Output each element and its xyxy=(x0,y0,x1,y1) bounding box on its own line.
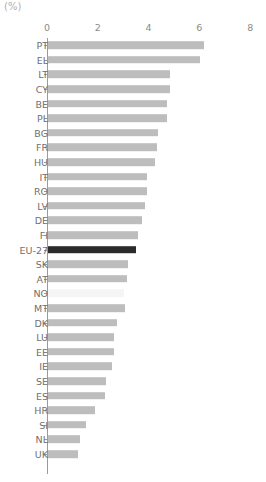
chart-row: SE xyxy=(0,374,266,389)
category-label-lu: LU xyxy=(36,332,48,343)
plot-area: 02468PTELLTCYBEPLBGFRHUITROLVDEFIEU-27SK… xyxy=(0,0,266,482)
bar-si xyxy=(48,421,86,429)
bar-es xyxy=(48,392,105,400)
category-label-eu-27: EU-27 xyxy=(20,244,48,255)
chart-row: EL xyxy=(0,53,266,68)
x-tick-label-2: 2 xyxy=(95,22,101,33)
bar-nl xyxy=(48,436,80,444)
bar-hu xyxy=(48,158,155,166)
chart-row: CY xyxy=(0,82,266,97)
bar-it xyxy=(48,173,147,181)
chart-row: DE xyxy=(0,213,266,228)
bar-el xyxy=(48,56,200,64)
chart-row: DK xyxy=(0,315,266,330)
bar-uk xyxy=(48,450,78,458)
category-label-cy: CY xyxy=(36,84,48,95)
bar-ee xyxy=(48,348,114,356)
bar-bg xyxy=(48,129,158,137)
chart-row: LU xyxy=(0,330,266,345)
bar-fi xyxy=(48,231,138,239)
category-label-lv: LV xyxy=(37,200,48,211)
bar-hr xyxy=(48,407,95,415)
chart-row: FR xyxy=(0,140,266,155)
chart-row: HU xyxy=(0,155,266,170)
category-label-it: IT xyxy=(39,171,48,182)
bar-be xyxy=(48,100,167,108)
bar-at xyxy=(48,275,127,283)
category-label-hr: HR xyxy=(34,405,48,416)
chart-row: SK xyxy=(0,257,266,272)
category-label-es: ES xyxy=(36,390,48,401)
chart-row: NL xyxy=(0,432,266,447)
chart-row: UK xyxy=(0,447,266,462)
category-label-pt: PT xyxy=(36,40,48,51)
category-label-fr: FR xyxy=(36,142,48,153)
category-label-mt: MT xyxy=(34,303,48,314)
category-label-lt: LT xyxy=(38,69,48,80)
chart-row: LV xyxy=(0,199,266,214)
chart-row: EU-27 xyxy=(0,242,266,257)
bar-eu-27 xyxy=(48,246,136,254)
bar-fr xyxy=(48,144,157,152)
category-label-de: DE xyxy=(35,215,48,226)
chart-row: LT xyxy=(0,67,266,82)
bar-lt xyxy=(48,71,170,79)
chart-row: BE xyxy=(0,96,266,111)
chart-row: PL xyxy=(0,111,266,126)
bar-ie xyxy=(48,363,112,371)
bar-lv xyxy=(48,202,145,210)
chart-row: MT xyxy=(0,301,266,316)
bar-mt xyxy=(48,304,125,312)
category-label-bg: BG xyxy=(34,127,48,138)
category-label-no: NO xyxy=(33,288,48,299)
category-label-at: AT xyxy=(36,273,48,284)
bar-se xyxy=(48,377,106,385)
bar-pl xyxy=(48,115,167,123)
category-label-fi: FI xyxy=(40,230,48,241)
chart-row: ES xyxy=(0,388,266,403)
chart-row: EE xyxy=(0,345,266,360)
x-tick-label-8: 8 xyxy=(247,22,253,33)
category-label-pl: PL xyxy=(37,113,48,124)
chart-row: SI xyxy=(0,418,266,433)
bar-pt xyxy=(48,42,204,50)
chart-row: IT xyxy=(0,169,266,184)
chart-row: RO xyxy=(0,184,266,199)
x-tick-label-4: 4 xyxy=(146,22,152,33)
bar-cy xyxy=(48,85,170,93)
chart-row: AT xyxy=(0,272,266,287)
bar-lu xyxy=(48,334,114,342)
chart-row: HR xyxy=(0,403,266,418)
x-tick-label-6: 6 xyxy=(196,22,202,33)
category-label-be: BE xyxy=(35,98,48,109)
bar-chart: (%) 02468PTELLTCYBEPLBGFRHUITROLVDEFIEU-… xyxy=(0,0,266,482)
category-label-si: SI xyxy=(39,419,48,430)
chart-row: BG xyxy=(0,126,266,141)
category-label-ee: EE xyxy=(36,346,48,357)
category-label-hu: HU xyxy=(34,157,48,168)
category-label-ro: RO xyxy=(34,186,48,197)
bar-no xyxy=(48,290,124,298)
chart-row: FI xyxy=(0,228,266,243)
x-tick-label-0: 0 xyxy=(44,22,50,33)
bar-de xyxy=(48,217,142,225)
bar-sk xyxy=(48,261,128,269)
category-label-sk: SK xyxy=(36,259,48,270)
category-label-se: SE xyxy=(36,376,48,387)
bar-dk xyxy=(48,319,117,327)
category-label-el: EL xyxy=(37,54,48,65)
category-label-ie: IE xyxy=(39,361,48,372)
category-label-uk: UK xyxy=(35,449,48,460)
chart-row: IE xyxy=(0,359,266,374)
bar-ro xyxy=(48,188,147,196)
chart-row: NO xyxy=(0,286,266,301)
chart-row: PT xyxy=(0,38,266,53)
category-label-nl: NL xyxy=(36,434,48,445)
category-label-dk: DK xyxy=(34,317,48,328)
